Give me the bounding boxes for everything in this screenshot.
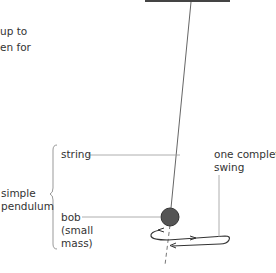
arrow-left-top [158,228,164,232]
simple-pendulum-label-line1: simple [1,187,36,200]
dashed-line [165,225,170,265]
bob [161,208,179,226]
intro-text-line2: en for [0,41,31,54]
swing-label-line2: swing [214,161,244,174]
bob-label-line2: (small [61,224,93,237]
swing-path [151,230,230,246]
pendulum-diagram [0,0,276,273]
simple-pendulum-label-line2: pendulum [1,200,54,213]
pendulum-string [171,2,191,208]
swing-label-line1: one complete [214,148,276,161]
string-label: string [61,148,91,161]
bob-label-line3: mass) [61,237,93,250]
bob-label-line1: bob [61,211,81,224]
intro-text-line1: up to [0,25,27,38]
brace [50,145,57,249]
